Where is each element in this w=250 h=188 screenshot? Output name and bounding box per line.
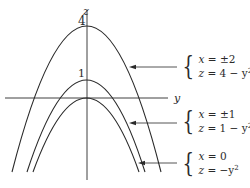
equation-z: z = 4 − y2 (199, 68, 250, 79)
arrow-to-middle-curve (129, 121, 177, 125)
parabola-z-minus-y2 (33, 98, 139, 172)
arrow-to-inner-curve (138, 161, 177, 165)
annotation-x-pm2: { x = ±2 z = 4 − y2 (180, 53, 250, 79)
arrow-to-outer-curve (129, 65, 177, 69)
equation-x: x = 0 (199, 151, 239, 162)
tick-label-1: 1 (78, 68, 85, 79)
left-brace-icon: { (182, 150, 194, 176)
left-brace-icon: { (182, 53, 194, 79)
equation-z: z = 1 − y2 (199, 123, 250, 134)
y-axis-label: y (174, 93, 180, 104)
equation-x: x = ±1 (199, 109, 250, 120)
left-brace-icon: { (182, 108, 194, 134)
equation-x: x = ±2 (199, 54, 250, 65)
annotation-x-0: { x = 0 z = −y2 (180, 150, 239, 176)
annotation-x-pm1: { x = ±1 z = 1 − y2 (180, 108, 250, 134)
equation-z: z = −y2 (199, 165, 239, 176)
tick-label-4: 4 (78, 15, 86, 27)
parabola-z-1-minus-y2 (27, 80, 145, 172)
